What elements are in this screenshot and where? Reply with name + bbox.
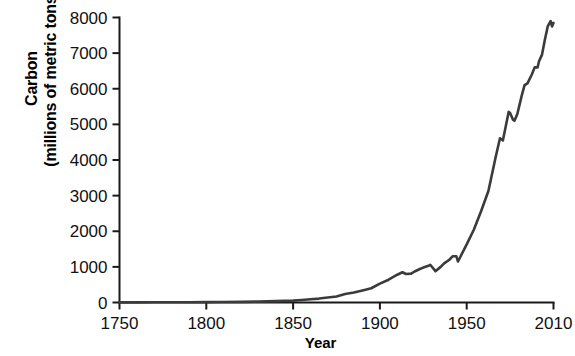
chart-canvas: 010002000300040005000600070008000 175018… bbox=[0, 0, 575, 356]
y-tick-label: 4000 bbox=[70, 151, 108, 170]
y-tick-label: 5000 bbox=[70, 115, 108, 134]
x-axis-tick-marks bbox=[120, 303, 554, 310]
data-series-line bbox=[120, 21, 554, 302]
x-tick-label: 1850 bbox=[274, 314, 312, 333]
x-tick-label: 1950 bbox=[448, 314, 486, 333]
x-axis-tick-labels: 175018001850190019502010 bbox=[101, 314, 573, 333]
y-axis-title-line2: (millions of metric tons) bbox=[42, 0, 61, 209]
y-axis-title: Carbon (millions of metric tons) bbox=[23, 0, 60, 209]
y-tick-label: 7000 bbox=[70, 44, 108, 63]
y-axis-title-line1: Carbon bbox=[23, 0, 42, 209]
x-axis-title-text: Year bbox=[305, 334, 336, 351]
y-tick-label: 6000 bbox=[70, 80, 108, 99]
x-axis-title: Year bbox=[0, 334, 575, 351]
x-tick-label: 1750 bbox=[101, 314, 139, 333]
y-tick-label: 3000 bbox=[70, 187, 108, 206]
y-axis-tick-marks bbox=[113, 18, 120, 303]
y-tick-label: 8000 bbox=[70, 9, 108, 28]
carbon-emissions-chart: 010002000300040005000600070008000 175018… bbox=[0, 0, 575, 356]
x-tick-label: 1800 bbox=[187, 314, 225, 333]
y-tick-label: 2000 bbox=[70, 222, 108, 241]
x-tick-label: 2010 bbox=[535, 314, 573, 333]
y-axis-tick-labels: 010002000300040005000600070008000 bbox=[70, 9, 108, 313]
x-tick-label: 1900 bbox=[361, 314, 399, 333]
y-tick-label: 1000 bbox=[70, 258, 108, 277]
y-tick-label: 0 bbox=[98, 294, 107, 313]
